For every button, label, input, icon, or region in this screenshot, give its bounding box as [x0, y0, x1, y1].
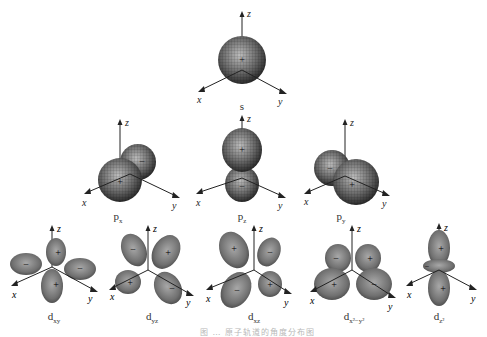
sign: + [367, 253, 373, 264]
orbital-px: + − z x y px [80, 110, 190, 210]
z-axis-label: z [443, 222, 448, 233]
sign: − [234, 285, 240, 296]
sign-plus: + [239, 144, 245, 155]
sign: − [23, 259, 29, 270]
sign-minus: − [327, 163, 333, 174]
sign: + [440, 283, 446, 294]
dxz-orbital-icon: + − − + z x y [204, 222, 294, 312]
orbital-dxy: + − − + z x y dxy [10, 222, 100, 332]
sign: + [231, 243, 237, 254]
orbital-label-dx2y2: dx²−y² [314, 310, 394, 325]
sign: + [53, 279, 59, 290]
y-axis-label: y [87, 293, 93, 304]
figure-caption: 图 … 原子轨道的角度分布图 [200, 326, 340, 337]
y-axis-label: y [470, 293, 476, 304]
py-orbital-icon: − + z x y [300, 110, 410, 210]
orbital-dyz: − + + − z x y dyz [108, 222, 198, 332]
x-axis-label: x [109, 291, 115, 302]
sign-minus: − [239, 181, 245, 192]
y-axis-label: y [185, 297, 191, 308]
orbital-label-dxz: dxz [214, 310, 294, 325]
orbital-pz: + − z x y pz [190, 110, 300, 210]
sign: − [267, 247, 273, 258]
dx2y2-orbital-icon: − + + − z x y [308, 222, 398, 312]
orbital-dx2y2: − + + − z x y dx²−y² [308, 222, 398, 332]
z-axis-label: z [258, 223, 263, 234]
z-axis-label: z [246, 113, 251, 124]
sign-plus: + [349, 179, 355, 190]
x-axis-label: x [205, 293, 211, 304]
x-axis-label: x [406, 289, 412, 300]
orbital-label-dxy: dxy [14, 310, 94, 325]
sign: + [165, 247, 171, 258]
orbital-s: + z x y s [195, 8, 295, 108]
orbital-label-dyz: dyz [112, 310, 192, 325]
x-axis-label: x [303, 196, 309, 207]
dxy-orbital-icon: + − − + z x y [10, 222, 100, 312]
sign-plus: + [117, 176, 123, 187]
sign: − [425, 262, 430, 271]
orbital-dz2: + − + z x y dz² [405, 222, 485, 332]
sign: + [438, 243, 444, 254]
sign: − [130, 244, 136, 255]
sign-plus: + [239, 54, 245, 65]
sign: + [127, 277, 133, 288]
z-axis-label: z [56, 223, 61, 234]
orbital-label-dz2: dz² [399, 310, 479, 325]
sign: − [77, 263, 83, 274]
x-axis-label: x [195, 197, 201, 208]
z-axis-label: z [356, 223, 361, 234]
sign: − [371, 279, 377, 290]
sign: − [333, 253, 339, 264]
y-axis-label: y [283, 297, 289, 308]
px-orbital-icon: + − z x y [80, 110, 190, 210]
y-axis-label: y [381, 198, 387, 209]
s-orbital-sphere-icon: + z x y [195, 8, 295, 108]
sign-minus: − [139, 156, 145, 167]
dz2-orbital-icon: + − + z x y [405, 222, 485, 312]
orbital-py: − + z x y py [300, 110, 410, 210]
pz-orbital-icon: + − z x y [190, 110, 300, 210]
y-axis-label: y [171, 200, 177, 211]
z-axis-label: z [152, 223, 157, 234]
z-axis-label: z [246, 8, 251, 19]
z-axis-label: z [124, 117, 129, 128]
sign: − [169, 283, 175, 294]
orbital-dxz: + − − + z x y dxz [204, 222, 294, 332]
sign: + [55, 247, 61, 258]
x-axis-label: x [309, 295, 315, 306]
dyz-orbital-icon: − + + − z x y [108, 222, 198, 312]
x-axis-label: x [81, 197, 87, 208]
z-axis-label: z [349, 117, 354, 128]
sign: + [331, 279, 337, 290]
sign: + [267, 279, 273, 290]
x-axis-label: x [11, 289, 17, 300]
